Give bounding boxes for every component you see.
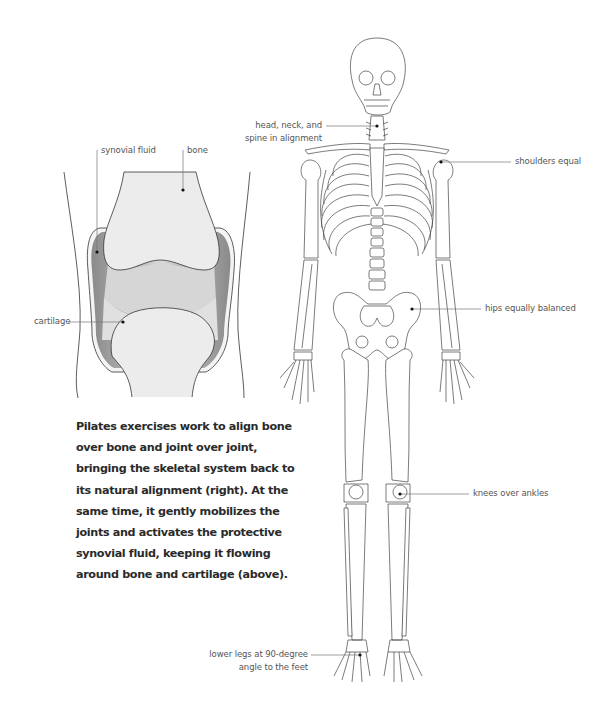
label-synovial-fluid: synovial fluid bbox=[101, 144, 156, 157]
femur-bone bbox=[104, 172, 220, 270]
hand-left bbox=[280, 352, 314, 404]
patella-right bbox=[393, 485, 407, 499]
tibia-bone bbox=[111, 308, 214, 398]
leg-outline-left bbox=[64, 172, 80, 398]
caption-line: joints and activates the protective bbox=[76, 522, 272, 543]
caption-line: synovial fluid, keeping it flowing bbox=[76, 543, 272, 564]
clavicle-right bbox=[384, 143, 449, 154]
cervical-spine bbox=[369, 116, 385, 140]
humerus-left bbox=[301, 160, 321, 258]
caption-line: its natural alignment (right). At the bbox=[76, 480, 272, 501]
skull bbox=[350, 38, 405, 115]
femur-left bbox=[342, 349, 369, 482]
label-head-neck-line2: spine in alignment bbox=[238, 132, 322, 145]
illustration-canvas bbox=[0, 0, 608, 725]
sternum bbox=[370, 148, 384, 206]
skeleton-leader-lines bbox=[311, 124, 511, 656]
label-knees: knees over ankles bbox=[473, 487, 548, 500]
label-head-neck-line1: head, neck, and bbox=[238, 119, 322, 132]
lumbar-spine bbox=[369, 208, 385, 290]
caption-line: bringing the skeletal system back to bbox=[76, 458, 272, 479]
label-bone: bone bbox=[187, 144, 208, 157]
label-shoulders: shoulders equal bbox=[515, 155, 581, 168]
foot-right bbox=[384, 640, 422, 682]
foot-left bbox=[334, 640, 370, 682]
femur-right bbox=[386, 349, 413, 482]
knee-joint-diagram bbox=[64, 150, 250, 398]
patella-left bbox=[349, 485, 363, 499]
label-cartilage: cartilage bbox=[34, 315, 70, 328]
caption-line: around bone and cartilage (above). bbox=[76, 564, 272, 585]
label-lower-legs-line2: angle to the feet bbox=[200, 661, 308, 674]
label-lower-legs-line1: lower legs at 90-degree bbox=[200, 648, 308, 661]
caption-line: over bone and joint over joint, bbox=[76, 437, 272, 458]
clavicle-left bbox=[305, 143, 370, 154]
forearm-right bbox=[436, 260, 460, 350]
hand-right bbox=[440, 352, 474, 404]
humerus-right bbox=[433, 160, 453, 258]
forearm-left bbox=[294, 260, 318, 350]
caption-paragraph: Pilates exercises work to align bone ove… bbox=[76, 416, 272, 586]
leg-outline-right bbox=[238, 172, 250, 398]
caption-line: same time, it gently mobilizes the bbox=[76, 501, 272, 522]
caption-line: Pilates exercises work to align bone bbox=[76, 416, 272, 437]
label-hips: hips equally balanced bbox=[485, 302, 576, 315]
